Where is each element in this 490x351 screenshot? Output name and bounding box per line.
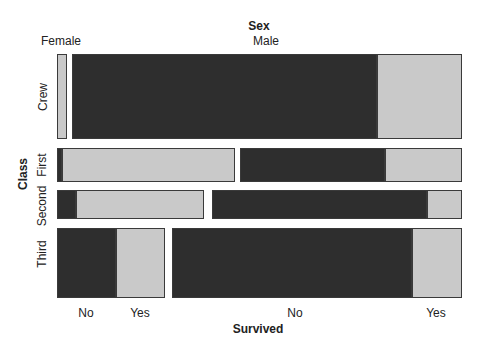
survived-yes-male-label: Yes: [426, 307, 446, 319]
cell-second-male-yes: [427, 190, 462, 219]
survived-no-female-label: No: [78, 307, 93, 319]
survived-no-male-label: No: [287, 307, 302, 319]
cell-third-male-yes: [412, 228, 462, 298]
cell-second-female-no: [57, 190, 76, 219]
cell-second-male-no: [212, 190, 427, 219]
cell-third-male-no: [172, 228, 412, 298]
cell-third-female-no: [57, 228, 116, 298]
cell-crew-male-no: [72, 54, 377, 139]
mosaic-chart: Sex Female Male Class Crew First Second …: [0, 0, 490, 351]
cell-first-female-yes: [62, 148, 235, 182]
cell-crew-male-yes: [377, 54, 462, 139]
mosaic-plot: [0, 0, 490, 351]
cell-first-male-no: [240, 148, 385, 182]
cell-crew-female-yes: [57, 54, 67, 139]
survived-yes-female-label: Yes: [130, 307, 150, 319]
cell-first-male-yes: [385, 148, 462, 182]
survived-axis-title: Survived: [233, 323, 284, 335]
cell-second-female-yes: [76, 190, 204, 219]
cell-third-female-yes: [116, 228, 165, 298]
